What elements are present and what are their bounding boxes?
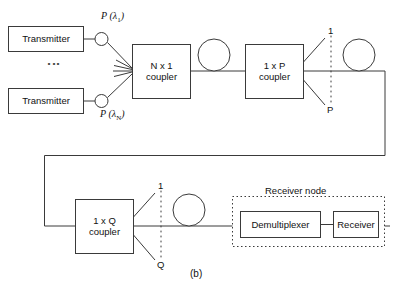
power-symbol-1: P bbox=[101, 10, 107, 21]
1-x-p-coupler-line1: 1 x P bbox=[264, 60, 286, 71]
coupler2-port-last-label: P bbox=[327, 104, 333, 115]
1-x-p-coupler-label: 1 x P coupler bbox=[246, 60, 303, 82]
power-symbol-2: P bbox=[100, 108, 106, 119]
coupler3-port-last-label: Q bbox=[157, 259, 164, 270]
fanin-stub-d bbox=[114, 72, 132, 77]
source-circle-1 bbox=[95, 33, 108, 46]
power-label-lambda-1: P (λ1) bbox=[101, 10, 124, 24]
amplifier-circle-3 bbox=[173, 194, 205, 226]
coupler2-out-top bbox=[304, 38, 326, 62]
figure-caption: (b) bbox=[190, 268, 202, 279]
coupler3-out-top bbox=[134, 193, 156, 217]
figure-canvas: Transmitter Transmitter ⋮ P (λ1) P (λN) … bbox=[0, 0, 397, 292]
demultiplexer-label: Demultiplexer bbox=[240, 219, 321, 230]
coupler3-port-first-label: 1 bbox=[158, 180, 163, 191]
transmitter-ellipsis: ⋮ bbox=[32, 57, 58, 71]
n-x-1-coupler-line1: N x 1 bbox=[150, 60, 172, 71]
coupler2-out-bottom bbox=[304, 80, 326, 105]
wavelength-index-1: 1 bbox=[117, 16, 121, 24]
amplifier-circle-1 bbox=[198, 39, 230, 71]
1-x-q-coupler-label: 1 x Q coupler bbox=[76, 215, 133, 237]
n-x-1-coupler-label: N x 1 coupler bbox=[133, 60, 190, 82]
n-x-1-coupler-line2: coupler bbox=[146, 71, 177, 82]
transmitter-label-2: Transmitter bbox=[8, 95, 84, 106]
1-x-q-coupler-line2: coupler bbox=[89, 226, 120, 237]
fanin-from-circle-2 bbox=[108, 74, 133, 98]
amplifier-circle-2 bbox=[343, 39, 375, 71]
1-x-q-coupler-line1: 1 x Q bbox=[93, 215, 116, 226]
coupler3-out-bottom bbox=[134, 235, 156, 260]
source-circle-2 bbox=[95, 95, 108, 108]
fanin-from-circle-1 bbox=[108, 43, 133, 69]
receiver-label: Receiver bbox=[333, 219, 379, 230]
power-label-lambda-n: P (λN) bbox=[100, 108, 125, 122]
transmitter-label-1: Transmitter bbox=[8, 33, 84, 44]
1-x-p-coupler-line2: coupler bbox=[259, 71, 290, 82]
receiver-node-title: Receiver node bbox=[265, 185, 326, 196]
coupler2-port-first-label: 1 bbox=[328, 25, 333, 36]
wavelength-index-2: N bbox=[116, 114, 121, 122]
